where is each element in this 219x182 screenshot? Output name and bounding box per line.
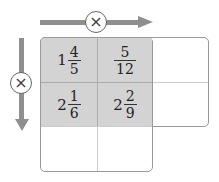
grid-cell-r0c1: 512	[97, 38, 152, 82]
whole-number: 1	[57, 51, 67, 69]
grid-cell-r1c1: 2 29	[97, 82, 152, 126]
numerator: 2	[124, 89, 137, 104]
fraction: 29	[124, 89, 137, 120]
numerator: 4	[68, 45, 81, 60]
grid-cell-r0c2	[153, 38, 208, 82]
denominator: 6	[68, 104, 81, 120]
whole-number: 2	[113, 96, 123, 114]
denominator: 5	[68, 60, 81, 76]
numerator: 1	[68, 89, 81, 104]
numerator: 5	[119, 45, 132, 60]
denominator: 12	[114, 60, 136, 76]
grid-cell-r1c2	[153, 82, 208, 126]
whole-number: 2	[57, 96, 67, 114]
arrow-right-icon	[138, 16, 153, 28]
multiply-icon-vertical: ×	[10, 72, 32, 94]
grid-cell-r0c0: 1 45	[41, 38, 97, 82]
grid-cell-r1c0: 2 16	[41, 82, 97, 126]
grid-cell-r2c0	[41, 126, 97, 171]
grid-cell-r2c1	[97, 126, 152, 171]
fraction: 512	[114, 45, 136, 76]
multiply-icon-horizontal: ×	[85, 11, 107, 33]
arrow-down-icon	[15, 119, 29, 131]
denominator: 9	[124, 104, 137, 120]
fraction: 45	[68, 45, 81, 76]
fraction: 16	[68, 89, 81, 120]
